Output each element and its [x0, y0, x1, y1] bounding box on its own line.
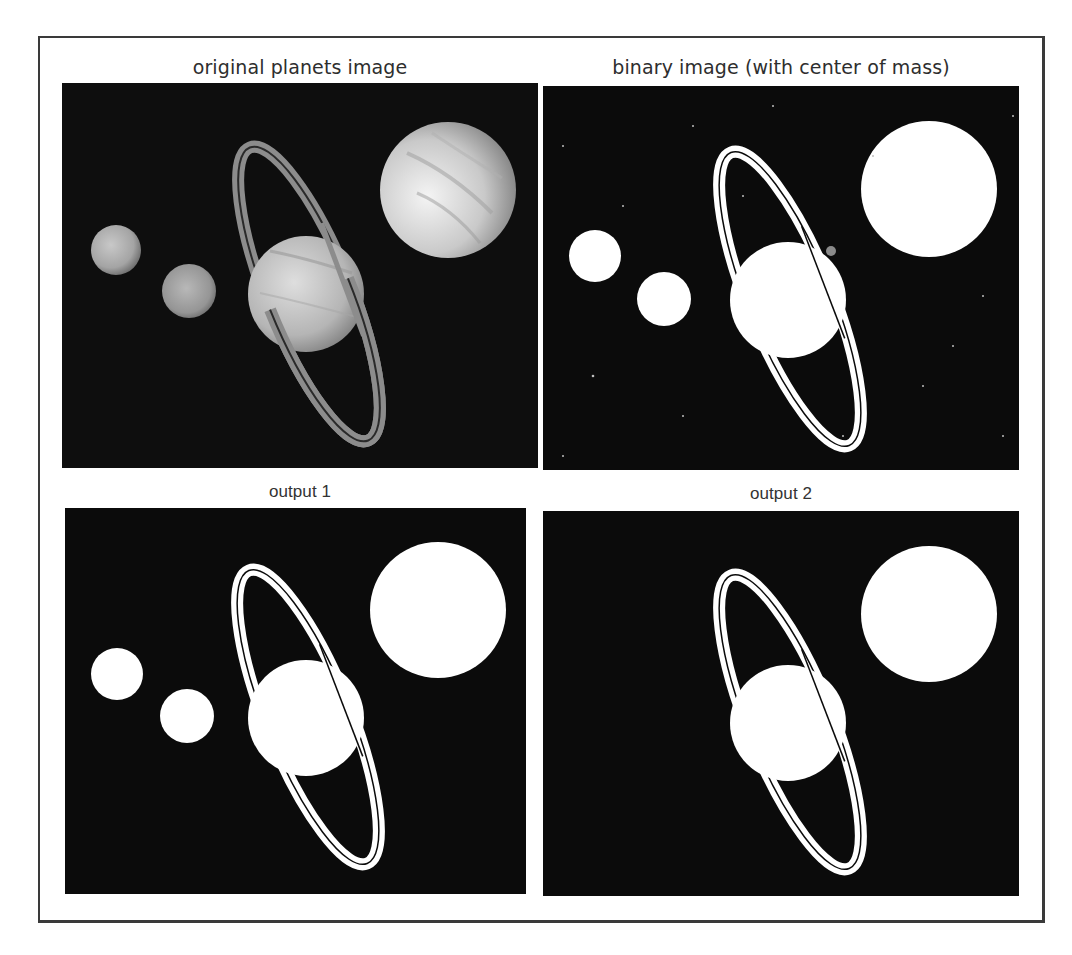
panel-output2-image	[543, 511, 1019, 896]
moon-left	[91, 648, 143, 700]
jupiter	[380, 122, 516, 258]
panel-title-binary: binary image (with center of mass)	[543, 56, 1019, 78]
output2-planets-graphic	[543, 511, 1019, 896]
panel-binary-image	[543, 86, 1019, 470]
saturn-body	[730, 665, 846, 781]
moon-middle	[162, 264, 216, 318]
original-planets-graphic	[62, 83, 538, 468]
moon-left	[91, 225, 141, 275]
saturn-body	[248, 660, 364, 776]
output1-planets-graphic	[65, 508, 526, 894]
panel-original-image	[62, 83, 538, 468]
panel-output1-image	[65, 508, 526, 894]
center-of-mass-marker	[826, 246, 836, 256]
moon-middle	[637, 272, 691, 326]
jupiter	[370, 542, 506, 678]
moon-middle	[160, 689, 214, 743]
panel-title-original: original planets image	[62, 56, 538, 78]
binary-planets-graphic	[543, 86, 1019, 470]
panel-title-output2: output 2	[543, 484, 1019, 504]
saturn-body	[730, 242, 846, 358]
moon-left	[569, 230, 621, 282]
jupiter	[861, 121, 997, 257]
panel-title-output1: output 1	[62, 482, 538, 502]
jupiter	[861, 546, 997, 682]
